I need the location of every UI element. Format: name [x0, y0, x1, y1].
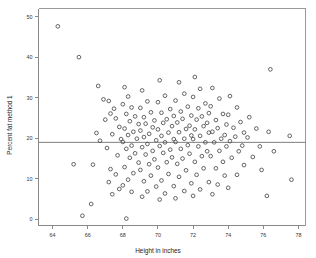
- plot-canvas: 6466687072747678 01020304050 Height in i…: [0, 0, 316, 258]
- y-tick-label: 20: [27, 135, 33, 141]
- x-tick-label: 72: [190, 232, 196, 238]
- x-axis-title: Height in inches: [135, 247, 180, 255]
- x-tick-label: 74: [225, 232, 231, 238]
- x-tick-label: 64: [50, 232, 56, 238]
- y-tick-label: 0: [30, 216, 33, 222]
- x-tick-label: 76: [260, 232, 266, 238]
- x-tick-label: 78: [295, 232, 301, 238]
- x-tick-label: 66: [85, 232, 91, 238]
- y-tick-label: 50: [27, 14, 33, 20]
- figure-background: [0, 0, 316, 258]
- y-tick-label: 30: [27, 95, 33, 101]
- y-tick-label: 40: [27, 54, 33, 60]
- scatter-plot-figure: 6466687072747678 01020304050 Height in i…: [0, 0, 316, 258]
- y-axis-title: Percent fat method 1: [6, 95, 13, 155]
- x-tick-label: 70: [155, 232, 161, 238]
- x-tick-label: 68: [120, 232, 126, 238]
- y-tick-label: 10: [27, 176, 33, 182]
